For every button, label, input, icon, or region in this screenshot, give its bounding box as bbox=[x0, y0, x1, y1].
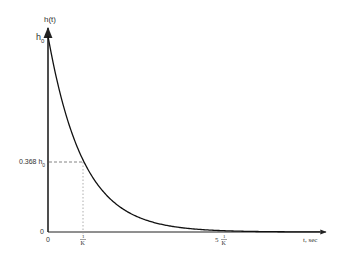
svg-text:K: K bbox=[81, 240, 86, 246]
y-axis-title: h(t) bbox=[44, 15, 56, 24]
decay-curve bbox=[48, 36, 320, 232]
x-tick-zero: 0 bbox=[46, 236, 50, 243]
x-tick-five-tau: 5 1 K bbox=[215, 234, 227, 246]
svg-text:K: K bbox=[222, 240, 227, 246]
y-tick-zero: 0 bbox=[40, 228, 44, 235]
svg-text:1: 1 bbox=[223, 234, 226, 239]
x-axis-title: t, sec bbox=[303, 236, 317, 244]
y-tick-h0: h0 bbox=[36, 32, 45, 44]
exponential-decay-chart: h(t) h0 0.368 h0 0 0 1 K 5 1 K t, sec bbox=[0, 0, 345, 264]
svg-text:5: 5 bbox=[215, 236, 219, 244]
svg-text:1: 1 bbox=[82, 234, 85, 239]
y-tick-0368h0: 0.368 h0 bbox=[19, 158, 45, 168]
x-tick-tau: 1 K bbox=[80, 234, 86, 246]
